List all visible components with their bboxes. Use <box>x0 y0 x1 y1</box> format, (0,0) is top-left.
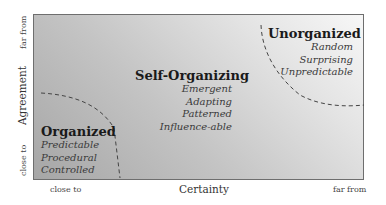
zone-item: Controlled <box>41 164 116 177</box>
zone-item: Surprising <box>268 54 353 67</box>
y-axis-low-label: close to <box>19 145 28 176</box>
x-axis-high-label: far from <box>333 185 366 194</box>
zone-item: Unpredictable <box>268 66 353 79</box>
zone-item: Influence-able <box>135 121 232 134</box>
zone-title: Organized <box>41 124 116 139</box>
y-axis-title: Agreement <box>16 66 28 125</box>
zone-item: Adapting <box>135 96 232 109</box>
zone-organized: Organized Predictable Procedural Control… <box>41 124 116 177</box>
zone-item: Predictable <box>41 139 116 152</box>
zone-item: Random <box>268 41 353 54</box>
zone-unorganized: Unorganized Random Surprising Unpredicta… <box>268 26 353 79</box>
zone-item: Emergent <box>135 83 232 96</box>
x-axis-low-label: close to <box>50 185 81 194</box>
zone-title: Unorganized <box>268 26 353 41</box>
x-axis-title: Certainty <box>179 183 229 195</box>
zone-item: Procedural <box>41 152 116 165</box>
y-axis-high-label: far from <box>19 16 28 49</box>
zone-title: Self-Organizing <box>135 68 232 83</box>
zone-item: Patterned <box>135 108 232 121</box>
zone-self-organizing: Self-Organizing Emergent Adapting Patter… <box>135 68 232 133</box>
